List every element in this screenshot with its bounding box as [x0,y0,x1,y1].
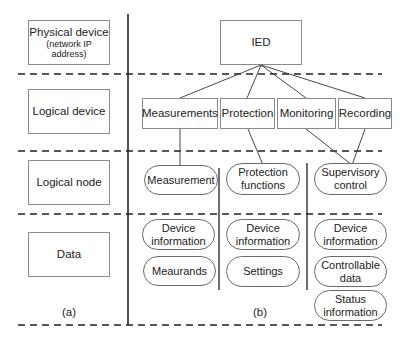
logical-device-label: Measurements [142,107,218,120]
data-label: Device [162,222,196,235]
logical-node-supervisory-control: Supervisory control [314,163,387,195]
data-controllable-data: Controllable data [314,256,387,287]
data-measurands: Meaurands [143,256,216,286]
data-status-information: Status information [314,290,387,321]
connector-line [248,129,263,165]
data-label: Status [335,293,366,306]
logical-node-measurement: Measurement [144,165,218,195]
data-label: Device [334,222,368,235]
logical-node-protection-functions: Protection functions [226,163,300,195]
layer-logical-node: Logical node [28,160,110,205]
logical-device-monitoring: Monitoring [277,98,336,129]
data-device-information: Device information [142,219,215,250]
logical-device-protection: Protection [220,98,275,129]
layer-physical-device: Physical device (network IP address) [28,20,110,65]
data-device-information: Device information [314,219,387,250]
connector-line [352,129,365,165]
panel-label-a: (a) [62,306,76,318]
layer-logical-device: Logical device [28,89,110,134]
data-label: Meaurands [152,265,207,278]
data-settings: Settings [226,256,300,287]
logical-node-label: Measurement [147,174,214,187]
layer-data: Data [28,232,110,277]
logical-device-label: Recording [339,107,391,120]
logical-node-label: Supervisory [321,166,379,179]
data-device-information: Device information [226,219,300,250]
layer-title: Logical node [36,176,101,189]
data-label: data [340,272,361,285]
data-label: information [323,306,377,319]
layer-title: Data [57,248,81,261]
ied-label: IED [251,36,270,49]
layer-title: Logical device [33,105,106,118]
logical-node-label: functions [241,179,285,192]
data-label: information [323,235,377,248]
logical-device-label: Monitoring [280,107,334,120]
logical-node-label: Protection [238,166,288,179]
layer-title: Physical device [29,26,108,39]
panel-label-b: (b) [253,306,267,318]
data-label: Controllable [321,259,380,272]
connector-line [261,65,306,98]
data-label: information [236,235,290,248]
data-label: information [151,235,205,248]
layer-subtitle: (network IP address) [29,39,109,60]
data-label: Device [246,222,280,235]
logical-device-measurements: Measurements [142,98,218,129]
ied-box: IED [220,20,302,65]
connector-line [261,65,365,98]
connector-line [306,129,352,165]
logical-node-label: control [334,179,367,192]
logical-device-label: Protection [222,107,274,120]
logical-device-recording: Recording [338,98,392,129]
data-label: Settings [243,265,283,278]
